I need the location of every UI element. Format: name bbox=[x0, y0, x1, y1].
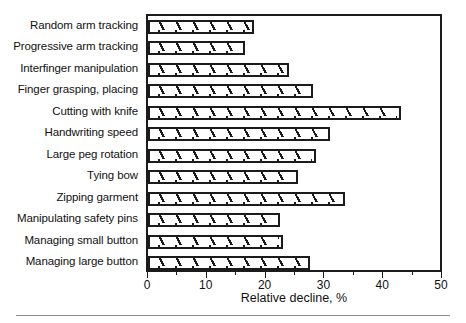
bar bbox=[148, 127, 330, 141]
plot-area bbox=[146, 14, 442, 272]
category-label: Managing small button bbox=[0, 234, 138, 246]
category-label: Finger grasping, placing bbox=[0, 83, 138, 95]
bar bbox=[148, 170, 298, 184]
bar bbox=[148, 41, 245, 55]
x-tick-label: 30 bbox=[317, 278, 330, 292]
category-label: Managing large button bbox=[0, 255, 138, 267]
bar bbox=[148, 63, 289, 77]
x-tick-label: 20 bbox=[258, 278, 271, 292]
category-label: Manipulating safety pins bbox=[0, 212, 138, 224]
x-tick-minor bbox=[294, 272, 295, 275]
x-axis-title: Relative decline, % bbox=[146, 291, 442, 305]
bar bbox=[148, 20, 254, 34]
x-tick-label: 0 bbox=[144, 278, 151, 292]
category-label: Handwriting speed bbox=[0, 126, 138, 138]
x-tick-label: 10 bbox=[199, 278, 212, 292]
bar bbox=[148, 256, 310, 270]
category-label: Random arm tracking bbox=[0, 19, 138, 31]
x-tick-minor bbox=[412, 272, 413, 275]
x-tick-label: 40 bbox=[376, 278, 389, 292]
figure-bottom-rule bbox=[16, 315, 450, 316]
category-label: Interfinger manipulation bbox=[0, 62, 138, 74]
category-label: Zipping garment bbox=[0, 191, 138, 203]
bar bbox=[148, 213, 280, 227]
category-axis-labels: Random arm trackingProgressive arm track… bbox=[0, 14, 142, 272]
category-label: Progressive arm tracking bbox=[0, 40, 138, 52]
bar-series bbox=[148, 16, 440, 270]
x-tick-label: 50 bbox=[434, 278, 447, 292]
category-label: Tying bow bbox=[0, 169, 138, 181]
bar bbox=[148, 235, 283, 249]
x-tick-minor bbox=[235, 272, 236, 275]
bar bbox=[148, 106, 401, 120]
category-label: Cutting with knife bbox=[0, 105, 138, 117]
bar bbox=[148, 84, 313, 98]
x-axis: 01020304050 bbox=[146, 272, 442, 282]
bar bbox=[148, 192, 345, 206]
category-label: Large peg rotation bbox=[0, 148, 138, 160]
bar bbox=[148, 149, 316, 163]
x-tick-minor bbox=[176, 272, 177, 275]
x-tick-minor bbox=[353, 272, 354, 275]
bar-chart-figure: Random arm trackingProgressive arm track… bbox=[0, 0, 466, 323]
